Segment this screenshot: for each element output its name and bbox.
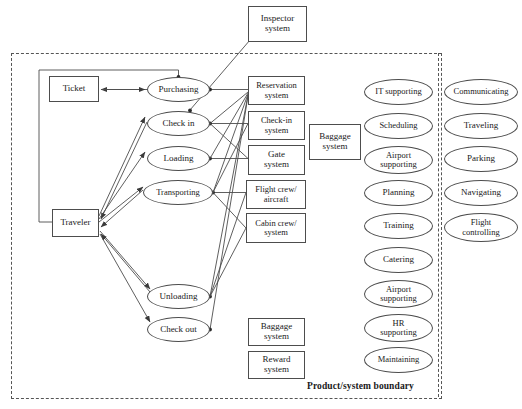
- node-label: Cabin crew/ system: [253, 219, 298, 237]
- node-check-in[interactable]: Check in: [147, 111, 210, 136]
- node-label: Reward system: [261, 355, 293, 374]
- node-label: Gate system: [262, 150, 291, 169]
- node-transporting[interactable]: Transporting: [143, 180, 213, 205]
- node-planning[interactable]: Planning: [364, 180, 433, 206]
- node-baggage-system-lower[interactable]: Baggage system: [248, 318, 305, 346]
- node-navigating[interactable]: Navigating: [444, 180, 518, 206]
- node-unloading[interactable]: Unloading: [147, 284, 210, 309]
- node-label: Airport supporting: [378, 151, 418, 169]
- node-label: Baggage system: [317, 132, 353, 151]
- node-purchasing[interactable]: Purchasing: [147, 77, 210, 102]
- node-label: Flight crew/ aircraft: [253, 185, 298, 203]
- node-label: Transporting: [154, 188, 202, 197]
- node-label: Purchasing: [157, 85, 201, 95]
- node-check-out[interactable]: Check out: [147, 317, 210, 342]
- node-label: Planning: [380, 188, 416, 198]
- node-label: Unloading: [158, 292, 200, 302]
- node-label: Parking: [465, 154, 497, 164]
- node-traveler[interactable]: Traveler: [52, 209, 99, 237]
- node-label: Inspector system: [259, 14, 297, 33]
- node-label: Traveler: [58, 218, 92, 228]
- node-ticket[interactable]: Ticket: [49, 76, 99, 102]
- node-it-supporting[interactable]: IT supporting: [364, 79, 433, 105]
- node-airport-supporting-2[interactable]: Airport supporting: [364, 280, 433, 308]
- node-reservation-system[interactable]: Reservation system: [248, 76, 305, 105]
- node-loading[interactable]: Loading: [147, 146, 210, 171]
- boundary-label: Product/system boundary: [307, 381, 414, 391]
- node-flight-crew-aircraft[interactable]: Flight crew/ aircraft: [246, 180, 306, 209]
- node-label: Training: [381, 221, 416, 231]
- node-label: Check out: [158, 325, 199, 335]
- node-airport-supporting-1[interactable]: Airport supporting: [364, 146, 433, 174]
- node-label: Reservation system: [254, 81, 299, 99]
- node-training[interactable]: Training: [364, 213, 433, 239]
- node-label: Maintaining: [376, 355, 422, 364]
- node-reward-system[interactable]: Reward system: [248, 351, 305, 379]
- node-check-in-system[interactable]: Check-in system: [248, 111, 305, 140]
- node-communicating[interactable]: Communicating: [444, 79, 518, 105]
- node-label: Baggage system: [259, 322, 295, 341]
- node-traveling[interactable]: Traveling: [444, 113, 518, 139]
- node-label: Catering: [381, 255, 416, 265]
- node-label: HR supporting: [378, 319, 418, 337]
- node-label: Navigating: [459, 188, 503, 198]
- node-parking[interactable]: Parking: [444, 146, 518, 172]
- node-inspector-system[interactable]: Inspector system: [248, 6, 307, 42]
- node-label: Communicating: [452, 87, 511, 96]
- node-label: Loading: [162, 154, 196, 164]
- node-baggage-system[interactable]: Baggage system: [309, 124, 361, 160]
- node-label: Check in: [160, 119, 196, 129]
- node-label: Airport supporting: [378, 285, 418, 303]
- node-catering[interactable]: Catering: [364, 247, 433, 273]
- node-maintaining[interactable]: Maintaining: [364, 347, 433, 373]
- node-label: Check-in system: [259, 116, 294, 134]
- diagram-canvas: Inspector system Ticket Traveler Purchas…: [0, 0, 522, 409]
- boundary-inner-divider: [438, 53, 439, 397]
- node-label: Scheduling: [377, 121, 419, 130]
- node-label: Flight controlling: [460, 218, 501, 236]
- node-gate-system[interactable]: Gate system: [248, 145, 305, 175]
- node-hr-supporting[interactable]: HR supporting: [364, 314, 433, 342]
- node-flight-controlling[interactable]: Flight controlling: [444, 213, 518, 242]
- node-label: Traveling: [462, 121, 501, 131]
- node-cabin-crew-system[interactable]: Cabin crew/ system: [246, 213, 306, 243]
- node-label: Ticket: [61, 84, 88, 94]
- node-label: IT supporting: [373, 87, 423, 96]
- node-scheduling[interactable]: Scheduling: [364, 113, 433, 139]
